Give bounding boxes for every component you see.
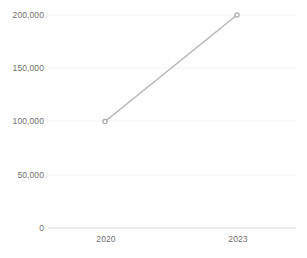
plot-area: [0, 0, 307, 258]
y-axis-tick-label: 100,000: [0, 116, 44, 126]
gridlines: [48, 15, 296, 175]
y-axis-tick-label: 50,000: [0, 170, 44, 180]
y-axis-tick-label: 0: [0, 223, 44, 233]
line-chart: 200,000 150,000 100,000 50,000 0 2020 20…: [0, 0, 307, 258]
x-axis-tick-label: 2023: [208, 234, 268, 244]
y-axis-tick-label: 200,000: [0, 10, 44, 20]
y-axis-tick-label: 150,000: [0, 63, 44, 73]
x-axis-tick-label: 2020: [76, 234, 136, 244]
data-point-marker: [103, 119, 107, 123]
data-point-marker: [235, 13, 239, 17]
